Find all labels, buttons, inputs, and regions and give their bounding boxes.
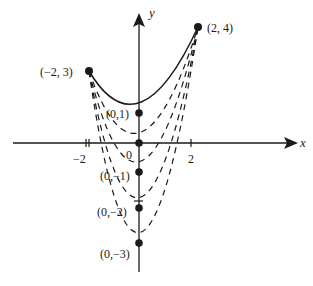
point-vertex-0 (135, 139, 143, 147)
point-vertex-neg1 (135, 168, 143, 176)
tick-label-pos2: 2 (188, 152, 194, 166)
point-right-endpoint (194, 23, 202, 31)
label-vertex-neg1: (0,−1) (100, 169, 130, 183)
label-left-endpoint: (−2, 3) (40, 65, 73, 79)
point-vertex-neg2 (135, 204, 143, 212)
point-left-endpoint (85, 67, 93, 75)
parabola-family-diagram: x y −2 0 2 (−2, 3) (2, 4) (0,1) (0,−1) (… (0, 0, 313, 286)
y-axis-label: y (147, 5, 155, 20)
label-vertex-neg3: (0,−3) (100, 247, 130, 261)
point-vertex-1 (135, 109, 143, 117)
point-vertex-neg3 (135, 239, 143, 247)
label-right-endpoint: (2, 4) (207, 21, 233, 35)
label-vertex-1: (0,1) (106, 107, 129, 121)
parabola-c1 (89, 27, 198, 104)
parabola-c-neg1 (89, 27, 198, 162)
x-axis-label: x (299, 135, 306, 150)
label-vertex-neg2: (0,−2) (97, 205, 127, 219)
tick-label-neg2: −2 (73, 152, 86, 166)
